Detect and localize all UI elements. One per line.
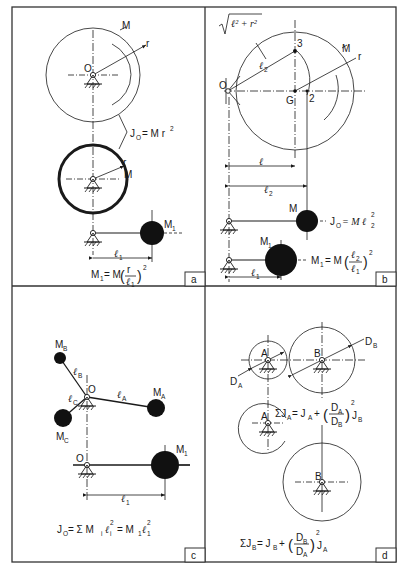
svg-text:J: J — [130, 128, 135, 139]
mass-m — [296, 210, 318, 232]
label-A: A — [261, 348, 268, 359]
label-B: B — [315, 471, 322, 482]
label-O: O — [76, 453, 84, 464]
dim-l2: ℓ — [264, 184, 268, 195]
svg-text:1: 1 — [320, 261, 324, 268]
svg-text:J: J — [57, 524, 62, 535]
svg-text:1: 1 — [131, 281, 135, 288]
label-3: 3 — [297, 38, 303, 49]
svg-text:2: 2 — [356, 255, 360, 262]
svg-text:ℓ² + r²: ℓ² + r² — [231, 18, 258, 29]
svg-text:M: M — [311, 255, 319, 266]
svg-text:2: 2 — [170, 125, 174, 132]
svg-text:ΣJ: ΣJ — [275, 408, 286, 419]
svg-text:A: A — [122, 395, 127, 402]
panel-tag-d: d — [382, 550, 388, 561]
equation-m1: M 1 = M ( r ℓ 1 ) 2 — [91, 264, 147, 288]
svg-text:1: 1 — [147, 530, 151, 537]
mass-mc — [54, 409, 72, 427]
svg-text:(: ( — [120, 268, 125, 284]
label-l2: ℓ — [259, 60, 263, 71]
svg-text:i: i — [101, 530, 102, 537]
svg-text:2: 2 — [143, 264, 147, 271]
mass-m1 — [151, 451, 179, 479]
svg-text:1: 1 — [268, 242, 272, 249]
panel-a: M r O J O = M r 2 r M M 1 ℓ 1 M 1 = M ( … — [46, 20, 205, 288]
svg-text:= M: = M — [104, 269, 121, 280]
label-lC: ℓ — [68, 393, 72, 404]
svg-text:(: ( — [288, 536, 293, 553]
svg-text:A: A — [238, 382, 243, 389]
svg-text:2: 2 — [369, 249, 373, 256]
svg-text:J: J — [317, 540, 322, 551]
svg-text:): ) — [363, 254, 368, 270]
svg-text:ℓ: ℓ — [142, 524, 146, 535]
svg-text:1: 1 — [256, 273, 260, 280]
svg-text:1: 1 — [172, 225, 176, 232]
svg-text:2: 2 — [371, 211, 375, 218]
svg-text:(: ( — [323, 406, 328, 423]
svg-text:C: C — [73, 399, 78, 406]
svg-text:= J: = J — [292, 408, 306, 419]
label-O: O — [219, 80, 227, 91]
svg-text:): ) — [310, 536, 315, 553]
svg-text:i: i — [110, 530, 111, 537]
label-2: 2 — [309, 93, 315, 104]
svg-text:A: A — [161, 393, 166, 400]
mass-m1 — [140, 221, 164, 245]
svg-text:2: 2 — [371, 222, 375, 229]
svg-text:A: A — [303, 551, 308, 558]
equation-jo-mr2: J O = M r 2 — [130, 125, 174, 141]
dim-l1: ℓ — [251, 267, 255, 278]
svg-text:): ) — [137, 268, 142, 284]
label-B: B — [314, 348, 321, 359]
svg-text:1: 1 — [126, 499, 130, 506]
panel-d: A B D A D B A B ΣJ A = J A + ( D A D B )… — [230, 322, 396, 562]
label-r: r — [146, 38, 150, 49]
equation-jo-sum: J O = Σ M i ℓ i 2 = M 1 ℓ 1 2 — [57, 519, 151, 537]
mass-mb — [54, 352, 66, 364]
panel-c: M B ℓ B O ℓ A M A ℓ C M C O M 1 ℓ 1 J O … — [54, 339, 205, 562]
svg-text:1: 1 — [119, 254, 123, 261]
svg-text:= M r: = M r — [142, 128, 166, 139]
svg-text:2: 2 — [351, 399, 355, 406]
dim-l1: ℓ — [114, 248, 118, 259]
svg-text:+: + — [279, 538, 285, 549]
svg-text:= J: = J — [257, 538, 271, 549]
svg-text:O: O — [336, 222, 341, 229]
svg-text:= Σ M: = Σ M — [68, 524, 94, 535]
svg-text:ℓ: ℓ — [351, 263, 355, 274]
svg-text:2: 2 — [316, 529, 320, 536]
svg-text:B: B — [273, 544, 277, 551]
equation-sum-ja: ΣJ A = J A + ( D A D B ) 2 J B — [275, 399, 362, 428]
label-DA: D — [230, 376, 237, 387]
label-M: M — [122, 20, 130, 31]
label-A: A — [261, 411, 268, 422]
equation-jo-ml2: J O = M ℓ 2 2 — [330, 211, 375, 229]
svg-text:= M: = M — [325, 255, 342, 266]
svg-text:C: C — [64, 437, 69, 444]
label-lA: ℓ — [117, 389, 121, 400]
svg-text:ℓ: ℓ — [126, 276, 130, 287]
label-G: G — [286, 95, 294, 106]
svg-text:B: B — [63, 345, 67, 352]
panel-tag-b: b — [382, 274, 388, 285]
label-lB: ℓ — [73, 366, 77, 377]
label-r: r — [123, 157, 127, 168]
svg-text:ℓ: ℓ — [351, 249, 355, 260]
equation-sum-jb: ΣJ B = J B + ( D B D A ) 2 J A — [240, 529, 328, 558]
svg-text:A: A — [308, 414, 313, 421]
svg-text:B: B — [338, 421, 342, 428]
svg-text:B: B — [252, 544, 256, 551]
svg-text:B: B — [78, 372, 82, 379]
dim-l: ℓ — [259, 156, 263, 167]
svg-text:+: + — [314, 408, 320, 419]
equation-m1-ratio: M 1 = M ( ℓ 2 ℓ 1 ) 2 — [311, 249, 373, 275]
mass-ma — [147, 399, 165, 417]
svg-text:M: M — [91, 269, 99, 280]
svg-text:B: B — [373, 342, 377, 349]
svg-text:B: B — [358, 416, 362, 423]
svg-text:O: O — [136, 134, 141, 141]
panel-tag-a: a — [191, 274, 197, 285]
label-O: O — [88, 384, 96, 395]
